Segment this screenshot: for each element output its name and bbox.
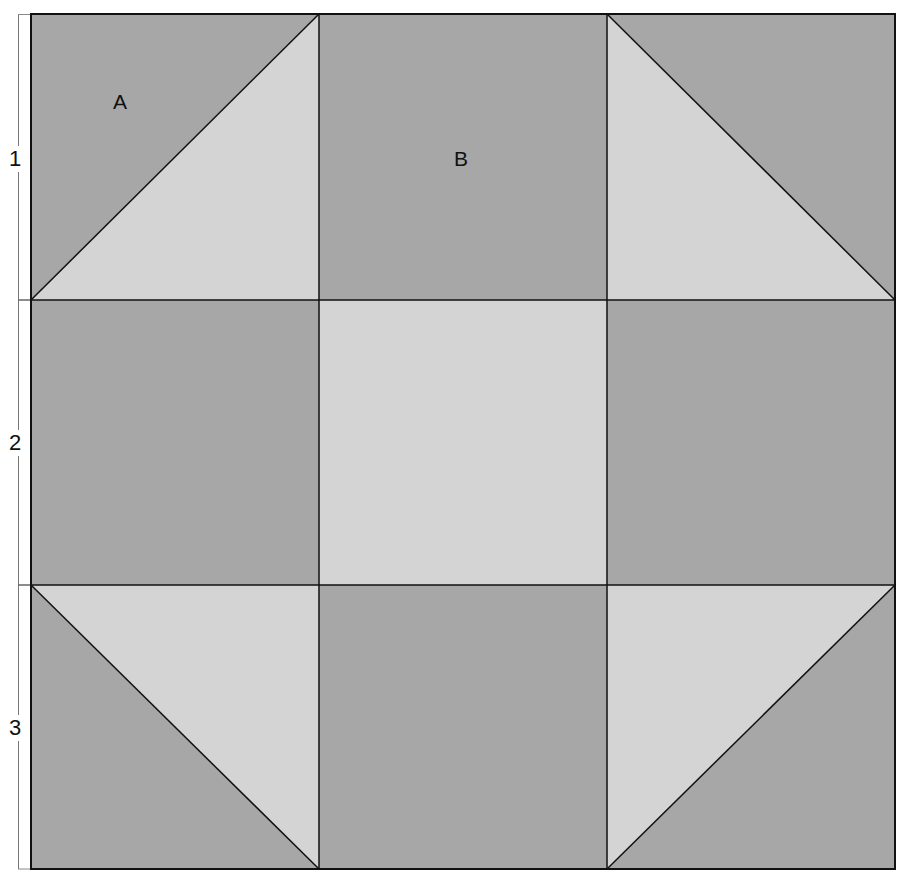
row-label-2: 2 bbox=[9, 430, 21, 456]
cell-r3c1 bbox=[31, 585, 319, 869]
cell-r2c2 bbox=[319, 300, 607, 585]
cell-r1c1 bbox=[31, 14, 319, 300]
quilt-block-svg bbox=[0, 0, 910, 883]
piece-label-b: B bbox=[454, 147, 468, 171]
piece-label-a: A bbox=[113, 90, 127, 114]
row-label-3: 3 bbox=[9, 715, 21, 741]
cell-r3c3 bbox=[607, 585, 895, 869]
cell-r2c3 bbox=[607, 300, 895, 585]
cell-r2c1 bbox=[31, 300, 319, 585]
quilt-diagram: 1 2 3 A B bbox=[0, 0, 910, 883]
cell-r1c3 bbox=[607, 14, 895, 300]
cell-r3c2 bbox=[319, 585, 607, 869]
row-label-1: 1 bbox=[9, 146, 21, 172]
